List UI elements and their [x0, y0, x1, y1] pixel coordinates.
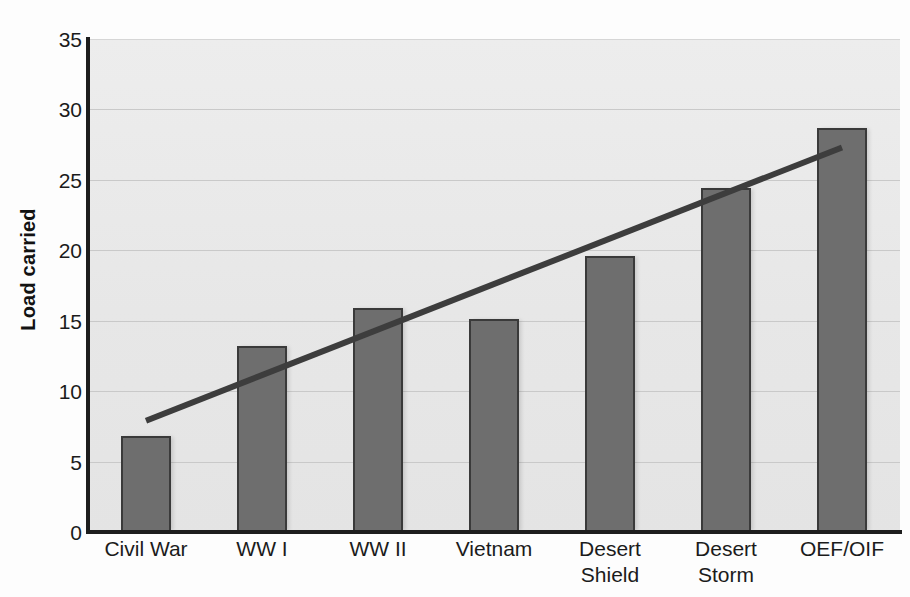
y-tick-label-0: 0 [36, 522, 82, 543]
y-axis-tick-labels: 05101520253035 [26, 0, 82, 597]
bar-ww-ii [353, 308, 403, 532]
y-tick-label-5: 5 [36, 451, 82, 472]
y-tick-label-10: 10 [36, 381, 82, 402]
y-tick-label-20: 20 [36, 240, 82, 261]
y-tick-label-35: 35 [36, 29, 82, 50]
bar-desert-storm [701, 188, 751, 532]
plot-top-edge [88, 39, 900, 40]
bar-oef-oif [817, 128, 867, 532]
x-tick-label-ww-ii: WW II [320, 536, 436, 562]
x-tick-label-desert-storm: Desert Storm [668, 536, 784, 587]
y-tick-label-15: 15 [36, 310, 82, 331]
y-tick-label-30: 30 [36, 99, 82, 120]
x-tick-label-vietnam: Vietnam [436, 536, 552, 562]
x-axis-tick-labels: Civil WarWW IWW IIVietnamDesert ShieldDe… [88, 536, 900, 596]
gridline-25 [88, 180, 900, 181]
y-axis-line [86, 37, 90, 534]
bar-ww-i [237, 346, 287, 532]
y-tick-label-25: 25 [36, 169, 82, 190]
plot-area [88, 39, 900, 532]
bar-chart: Load carried 05101520253035 Civil WarWW … [0, 0, 910, 597]
bar-vietnam [469, 319, 519, 532]
bar-desert-shield [585, 256, 635, 532]
x-tick-label-ww-i: WW I [204, 536, 320, 562]
x-tick-label-oef-oif: OEF/OIF [784, 536, 900, 562]
x-axis-line [86, 530, 902, 534]
gridline-20 [88, 250, 900, 251]
gridline-30 [88, 109, 900, 110]
x-tick-label-civil-war: Civil War [88, 536, 204, 562]
bar-civil-war [121, 436, 171, 532]
x-tick-label-desert-shield: Desert Shield [552, 536, 668, 587]
